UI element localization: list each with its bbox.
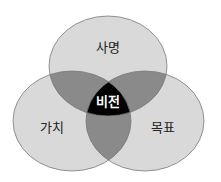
label-vision: 비전 — [96, 94, 120, 109]
venn-diagram: 사명 가치 목표 비전 — [0, 0, 221, 182]
label-mission: 사명 — [96, 40, 120, 55]
label-goal: 목표 — [151, 120, 175, 135]
label-value: 가치 — [40, 120, 64, 135]
